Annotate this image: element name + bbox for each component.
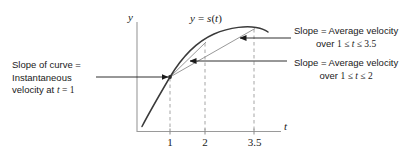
annotation-right-top-prefix: over <box>316 38 337 49</box>
x-tick-label-2: 2 <box>198 136 212 148</box>
secant-lines-group <box>170 29 255 78</box>
annotation-left-line2: Instantaneous <box>12 72 81 85</box>
annotation-average-velocity-1-to-3point5: Slope = Average velocity over 1 ≤ t ≤ 3.… <box>294 25 398 50</box>
annotation-right-bottom-line2: over 1 ≤ t ≤ 2 <box>294 70 398 83</box>
x-tick-label-3point5: 3.5 <box>243 136 266 148</box>
annotation-left-line3-prefix: velocity at <box>12 84 57 95</box>
annotation-right-bottom-rel1: ≤ <box>345 71 355 81</box>
y-axis-label: y <box>128 11 133 23</box>
annotation-right-top-rel2: ≤ <box>354 39 364 49</box>
annotation-right-bottom-rel2: ≤ <box>358 71 368 81</box>
annotation-left-line1: Slope of curve = <box>12 59 81 72</box>
leader-lines-group <box>96 38 291 77</box>
x-axis-label: t <box>284 120 287 132</box>
tangent-point-marker <box>168 75 172 79</box>
curve-label-paren-close: ) <box>218 12 222 24</box>
annotation-instantaneous-velocity: Slope of curve = Instantaneous velocity … <box>12 59 81 97</box>
x-tick-label-1: 1 <box>163 136 177 148</box>
secant-line-1-to-3point5 <box>170 29 255 78</box>
annotation-right-bottom-upper: 2 <box>368 71 373 81</box>
annotation-left-line3: velocity at t = 1 <box>12 84 81 97</box>
dashed-guide-lines <box>170 29 254 130</box>
annotation-right-top-line2: over 1 ≤ t ≤ 3.5 <box>294 38 398 51</box>
curve-equation-label: y=s(t) <box>190 12 222 24</box>
curve-label-equals: = <box>195 12 207 24</box>
annotation-right-bottom-line1: Slope = Average velocity <box>294 57 398 70</box>
annotation-right-bottom-prefix: over <box>319 70 340 81</box>
annotation-right-top-upper: 3.5 <box>364 39 376 49</box>
annotation-average-velocity-1-to-2: Slope = Average velocity over 1 ≤ t ≤ 2 <box>294 57 398 82</box>
annotation-right-top-rel1: ≤ <box>342 39 352 49</box>
annotation-right-top-line1: Slope = Average velocity <box>294 25 398 38</box>
calculus-figure: y t y=s(t) 1 2 3.5 Slope of curve = Inst… <box>0 0 409 161</box>
annotation-left-line3-val: 1 <box>70 85 75 95</box>
annotation-left-line3-op: = <box>60 85 70 95</box>
